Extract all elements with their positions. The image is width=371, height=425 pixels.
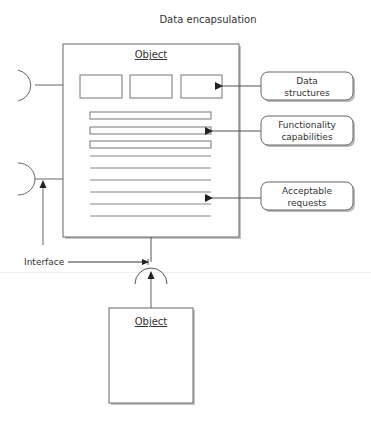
left-socket-top [18,70,63,101]
callout-line1: Functionality [278,120,336,130]
data-slot [130,75,172,98]
function-bars [90,112,211,148]
client-object-label: Object [135,316,168,327]
function-bar [90,141,211,148]
callout-functionality: Functionality capabilities [261,116,355,147]
left-socket-bottom [18,163,63,195]
callout-line1: Data [296,76,318,86]
interface-label-arrow [68,259,149,265]
callout-data-structures: Data structures [261,72,355,102]
callout-line2: capabilities [281,132,332,142]
bottom-interface-connector [148,237,151,265]
data-slot [181,75,222,98]
interface-label: Interface [24,257,65,267]
data-encapsulation-diagram: Data encapsulation Object [0,0,371,425]
callout-line2: structures [284,88,330,98]
main-object-label: Object [135,49,168,60]
callout-line2: requests [288,198,327,208]
data-structure-slots [80,75,222,98]
diagram-title: Data encapsulation [159,14,256,25]
data-slot [80,75,122,98]
function-bar [90,127,211,134]
callout-acceptable-requests: Acceptable requests [261,182,355,212]
function-bar [90,112,211,119]
interface-up-arrow [40,180,47,245]
callout-line1: Acceptable [282,186,332,196]
client-request-arrow [148,271,155,308]
